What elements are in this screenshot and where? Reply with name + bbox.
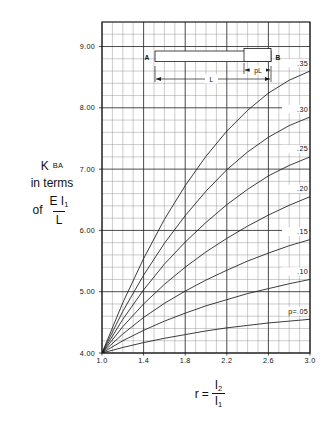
y-axis-title-line1: KBA bbox=[6, 158, 98, 175]
y-tick-label: 5.00 bbox=[80, 287, 95, 296]
span-label: L bbox=[210, 76, 214, 83]
y-axis-title-of: of bbox=[32, 202, 42, 219]
x-axis-equals: = bbox=[202, 387, 209, 401]
x-axis-fraction-numerator: I2 bbox=[212, 378, 226, 393]
x-tick-label: 3.0 bbox=[305, 356, 316, 365]
y-axis-title-text: in terms bbox=[31, 175, 74, 192]
curve-label-15: .15 bbox=[297, 227, 308, 236]
curve-label-25: .25 bbox=[297, 144, 308, 153]
chart-page: p=.05.10.15.20.25.30.35 1.01.41.82.22.63… bbox=[0, 0, 325, 431]
x-tick-label: 2.2 bbox=[221, 356, 232, 365]
haunch-label: pL bbox=[254, 67, 262, 75]
beam-label-a: A bbox=[145, 54, 150, 61]
y-axis-fraction: E I1 L bbox=[46, 193, 71, 229]
x-axis-fraction-denominator: I1 bbox=[212, 393, 226, 409]
y-axis-title-line3: of E I1 L bbox=[6, 193, 98, 229]
x-tick-label: 1.4 bbox=[138, 356, 149, 365]
y-axis-title-line2: in terms bbox=[6, 175, 98, 192]
y-axis-fraction-numerator-subscript: 1 bbox=[64, 200, 68, 209]
x-tick-label: 1.0 bbox=[97, 356, 108, 365]
x-axis-fraction: I2 I1 bbox=[212, 378, 226, 409]
curve-label-p05: p=.05 bbox=[288, 307, 308, 316]
y-axis-fraction-numerator-text: E I bbox=[49, 194, 64, 208]
curve-label-30: .30 bbox=[297, 105, 308, 114]
y-tick-label: 4.00 bbox=[80, 349, 95, 358]
y-axis-title: KBA in terms of E I1 L bbox=[6, 158, 98, 229]
curve-label-20: .20 bbox=[297, 184, 308, 193]
x-tick-label: 2.6 bbox=[263, 356, 274, 365]
curve-label-10: .10 bbox=[297, 267, 308, 276]
y-tick-label: 9.00 bbox=[80, 42, 95, 51]
y-axis-symbol: K bbox=[41, 158, 49, 175]
x-axis-symbol: r bbox=[195, 387, 199, 401]
y-tick-label: 8.00 bbox=[80, 103, 95, 112]
beam-label-b: B bbox=[276, 54, 281, 61]
y-axis-fraction-denominator: L bbox=[53, 211, 66, 229]
x-axis-fraction-numerator-subscript: 2 bbox=[218, 384, 222, 393]
x-axis-title: r = I2 I1 bbox=[150, 378, 270, 409]
y-axis-symbol-subscript: BA bbox=[53, 161, 63, 172]
y-axis-fraction-numerator: E I1 bbox=[46, 193, 71, 211]
minor-gridlines bbox=[102, 22, 310, 353]
curve-label-35: .35 bbox=[297, 59, 308, 68]
x-axis-fraction-denominator-subscript: 1 bbox=[218, 400, 222, 409]
beam-haunch bbox=[244, 49, 271, 62]
x-tick-label: 1.8 bbox=[180, 356, 191, 365]
